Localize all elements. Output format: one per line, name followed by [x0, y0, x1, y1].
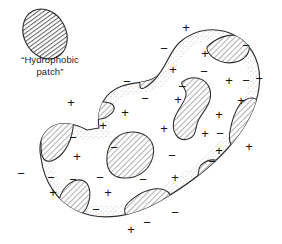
charge-plus: + — [169, 63, 177, 76]
charge-plus: + — [237, 94, 245, 107]
charge-plus: + — [67, 96, 75, 109]
hydrophobic-patch-figure: “Hydrophobic patch” +−−++−−+−−−+−+++++−+… — [0, 0, 282, 244]
charge-plus: + — [201, 127, 209, 140]
charge-plus: + — [215, 144, 223, 157]
charge-plus: + — [225, 74, 233, 87]
hydrophobic-patch-label: “Hydrophobic patch” — [4, 54, 96, 77]
charge-minus: − — [47, 171, 55, 184]
charge-minus: − — [69, 131, 77, 144]
charge-plus: + — [73, 150, 81, 163]
charge-plus: + — [99, 119, 107, 132]
charge-minus: − — [255, 72, 263, 85]
diagram-canvas — [0, 0, 282, 244]
charge-minus: − — [216, 127, 224, 140]
charge-plus: + — [201, 47, 209, 60]
charge-minus: − — [168, 149, 176, 162]
charge-minus: − — [171, 206, 179, 219]
charge-minus: − — [242, 39, 250, 52]
charge-plus: + — [121, 106, 129, 119]
charge-plus: + — [171, 171, 179, 184]
charge-minus: − — [208, 155, 216, 168]
charge-minus: − — [69, 173, 77, 186]
charge-plus: + — [174, 93, 182, 106]
charge-plus: + — [182, 21, 190, 34]
charge-minus: − — [139, 173, 147, 186]
charge-plus: + — [127, 223, 135, 236]
charge-minus: − — [123, 75, 131, 88]
charge-minus: − — [141, 92, 149, 105]
charge-plus: + — [160, 122, 168, 135]
charge-minus: − — [96, 171, 104, 184]
charge-minus: − — [200, 65, 208, 78]
charge-minus: − — [160, 42, 168, 55]
charge-minus: − — [143, 216, 151, 229]
charge-minus: − — [110, 141, 118, 154]
charge-plus: + — [215, 108, 223, 121]
charge-minus: − — [92, 203, 100, 216]
charge-plus: + — [245, 140, 253, 153]
charge-minus: − — [17, 167, 25, 180]
charge-minus: − — [242, 74, 250, 87]
charge-plus: + — [104, 186, 112, 199]
charge-plus: + — [49, 186, 57, 199]
